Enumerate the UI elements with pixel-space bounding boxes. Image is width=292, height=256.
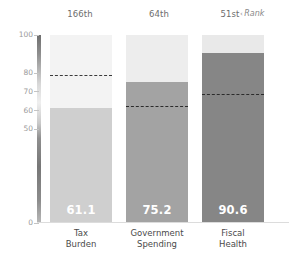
x-category-government-spending-line1: Government (117, 228, 197, 239)
y-tick-100: 100 (0, 31, 37, 39)
plot-area: 100 80 70 60 50 0 61.1 75.2 (0, 0, 292, 256)
y-tick-70: 70 (0, 88, 37, 96)
y-tick-0: 0 (0, 219, 37, 227)
x-category-tax-burden-line2: Burden (44, 239, 118, 250)
x-category-tax-burden-line1: Tax (44, 228, 118, 239)
bar-tax-burden[interactable]: 61.1 (50, 108, 112, 223)
x-category-fiscal-health-line2: Health (196, 239, 270, 250)
y-tick-60-mark (34, 110, 39, 111)
x-category-government-spending: Government Spending (117, 228, 197, 249)
y-tick-70-mark (34, 91, 39, 92)
bar-chart: 166th 64th 51st ‹Rank 100 80 70 60 50 (0, 0, 292, 256)
bar-fiscal-health[interactable]: 90.6 (202, 53, 264, 223)
reference-line-government-spending (126, 106, 188, 107)
bar-government-spending[interactable]: 75.2 (126, 82, 188, 223)
x-category-fiscal-health-line1: Fiscal (196, 228, 270, 239)
y-tick-80: 80 (0, 69, 37, 77)
x-category-fiscal-health: Fiscal Health (196, 228, 270, 249)
y-tick-50: 50 (0, 125, 37, 133)
y-tick-80-mark (34, 73, 39, 74)
bar-value-tax-burden: 61.1 (50, 204, 112, 217)
bar-value-fiscal-health: 90.6 (202, 204, 264, 217)
reference-line-tax-burden (50, 75, 112, 76)
x-axis-baseline (37, 222, 289, 223)
x-category-government-spending-line2: Spending (117, 239, 197, 250)
y-tick-50-mark (34, 129, 39, 130)
bar-value-government-spending: 75.2 (126, 204, 188, 217)
y-tick-60: 60 (0, 107, 37, 115)
reference-line-fiscal-health (202, 94, 264, 95)
y-tick-100-mark (34, 35, 39, 36)
x-category-tax-burden: Tax Burden (44, 228, 118, 249)
